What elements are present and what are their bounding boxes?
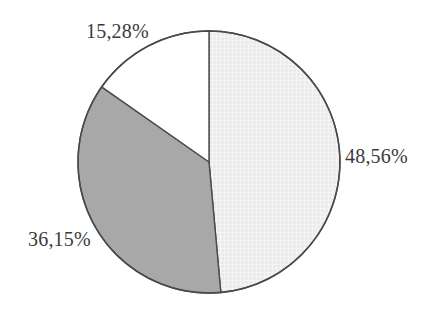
pie-slice-48-56[interactable] <box>209 31 340 292</box>
pie-label-15-28: 15,28% <box>86 21 149 41</box>
pie-chart-figure: 48,56% 36,15% 15,28% <box>0 0 426 312</box>
pie-label-48-56: 48,56% <box>345 146 408 166</box>
pie-label-36-15: 36,15% <box>28 229 91 249</box>
